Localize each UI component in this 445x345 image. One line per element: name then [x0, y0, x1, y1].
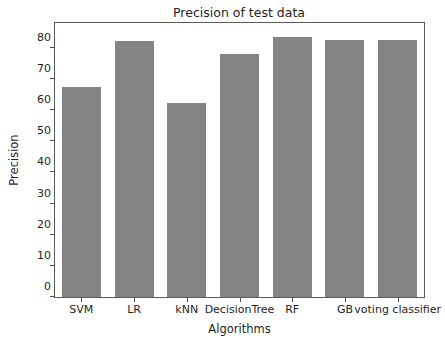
x-axis-tick-label: voting classifier — [354, 304, 441, 315]
y-axis-tick-label: 80 — [37, 31, 51, 42]
bar — [167, 103, 206, 297]
y-axis-tick-label: 40 — [37, 156, 51, 167]
x-axis-tick — [134, 297, 135, 302]
bar — [378, 40, 417, 297]
y-axis-tick — [50, 265, 55, 266]
y-axis-tick-label: 0 — [44, 281, 51, 292]
x-axis-tick — [398, 297, 399, 302]
x-axis-tick-label: RF — [285, 304, 299, 315]
y-axis-tick — [50, 203, 55, 204]
bar-chart-figure: Precision of test data Precision 0102030… — [0, 0, 445, 345]
bars-layer — [55, 23, 424, 297]
x-axis-tick — [81, 297, 82, 302]
y-axis-tick — [50, 234, 55, 235]
y-axis-tick — [50, 78, 55, 79]
plot-area: 01020304050607080SVMLRkNNDecisionTreeRFG… — [54, 22, 425, 298]
y-axis-tick — [50, 109, 55, 110]
y-axis-tick-label: 10 — [37, 249, 51, 260]
y-axis-tick-label: 20 — [37, 218, 51, 229]
y-axis-tick-label: 70 — [37, 63, 51, 74]
x-axis-tick — [187, 297, 188, 302]
y-axis-tick-label: 30 — [37, 187, 51, 198]
x-axis-tick-label: kNN — [175, 304, 198, 315]
y-axis-tick — [50, 47, 55, 48]
y-axis-label: Precision — [6, 22, 22, 298]
x-axis-tick-label: GB — [337, 304, 353, 315]
x-axis-tick — [292, 297, 293, 302]
bar — [273, 37, 312, 297]
x-axis-tick-label: LR — [127, 304, 141, 315]
y-axis-label-text: Precision — [7, 134, 21, 185]
x-axis-tick — [240, 297, 241, 302]
y-axis-tick — [50, 296, 55, 297]
y-axis-tick-label: 50 — [37, 125, 51, 136]
x-axis-tick-label: DecisionTree — [205, 304, 275, 315]
x-axis-tick-label: SVM — [69, 304, 93, 315]
x-axis-label: Algorithms — [54, 322, 425, 336]
x-axis-tick — [345, 297, 346, 302]
y-axis-tick — [50, 171, 55, 172]
bar — [62, 87, 101, 297]
y-axis-tick — [50, 140, 55, 141]
chart-title: Precision of test data — [52, 5, 426, 20]
bar — [325, 40, 364, 297]
bar — [220, 54, 259, 297]
bar — [115, 41, 154, 297]
y-axis-tick-label: 60 — [37, 94, 51, 105]
